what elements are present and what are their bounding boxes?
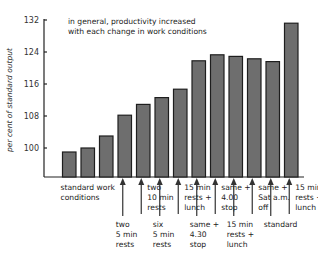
category-label: two [116,220,130,229]
category-label: stop [221,203,238,212]
y-tick-label: 132 [24,16,39,25]
arrowhead-icon [194,178,200,185]
annotation-line-1: in general, productivity increased [68,17,196,26]
productivity-bar-chart: 100108116124132 per cent of standard out… [0,0,318,259]
category-label: lunch [227,240,248,249]
bar [248,59,262,177]
bar [118,115,132,177]
category-label: off [258,203,269,212]
category-label: Sat a.m. [258,193,290,202]
bar [100,136,114,177]
category-label: same + [190,220,219,229]
category-label: 10 min [147,193,174,202]
category-label: standard [264,220,298,229]
arrowhead-icon [157,178,163,185]
category-label: rests [147,203,166,212]
y-tick-label: 124 [24,48,39,57]
bar [266,62,280,177]
category-label: 15 min [295,183,318,192]
y-tick-label: 100 [24,144,39,153]
category-label: rests + [295,193,318,202]
category-label: rests + [184,193,211,202]
arrowhead-icon [231,178,237,185]
bar [81,148,95,177]
bar [229,56,243,177]
arrowhead-icon [138,178,144,185]
arrowhead-icon [249,178,255,185]
arrowhead-icon [120,178,126,185]
annotation-note: in general, productivity increased with … [68,17,207,36]
y-axis-label: per cent of standard output [5,47,14,153]
arrowhead-icon [175,178,181,185]
category-label: 5 min [116,230,138,239]
annotation-line-2: with each change in work conditions [68,27,207,36]
category-label: rests [153,240,172,249]
bar [211,55,225,177]
category-label: 4.00 [221,193,238,202]
y-tick-label: 116 [24,80,39,89]
bar [155,98,169,177]
arrowhead-icon [212,178,218,185]
y-tick-label: 108 [24,112,39,121]
category-label: lunch [184,203,205,212]
category-label: lunch [295,203,316,212]
bar [63,152,77,177]
bars [63,23,299,177]
category-label: standard work [61,183,116,192]
category-label: 5 min [153,230,175,239]
category-label: rests + [227,230,254,239]
bar [285,23,299,177]
category-label: 4.30 [190,230,207,239]
category-label: stop [190,240,207,249]
arrowhead-icon [268,178,274,185]
category-label: rests [116,240,135,249]
bar [137,104,151,177]
bar [192,61,206,177]
category-label: six [153,220,164,229]
category-label: 15 min [227,220,254,229]
arrowhead-icon [286,178,292,185]
category-labels: standard workconditionstwo5 minreststwo1… [61,178,319,249]
category-label: conditions [61,193,100,202]
bar [174,89,188,177]
